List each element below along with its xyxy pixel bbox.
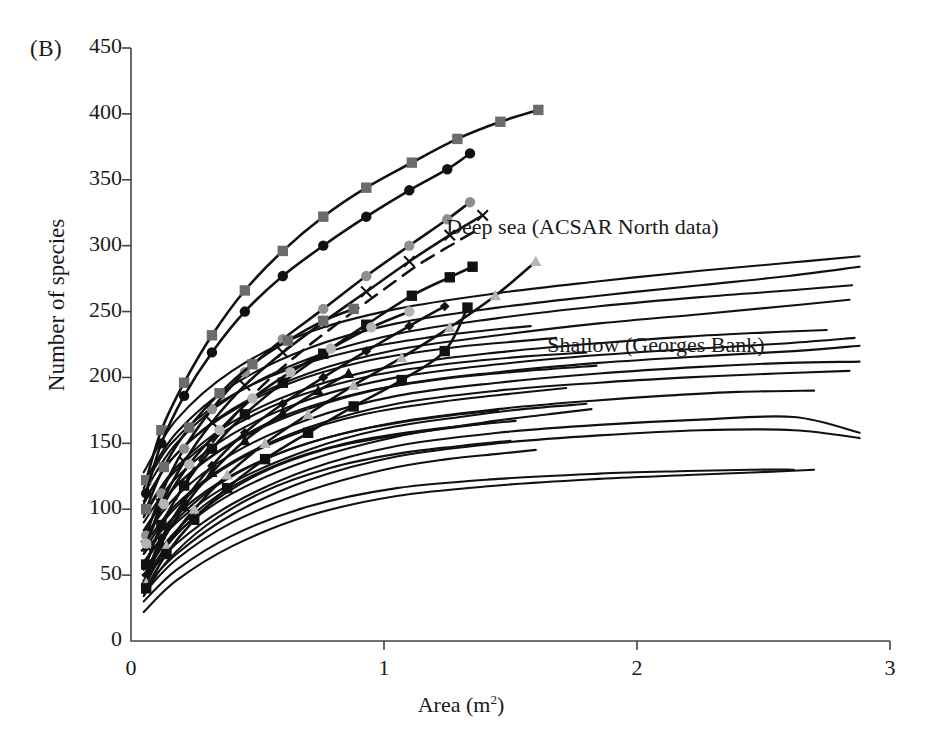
series-line — [144, 362, 860, 539]
x-tick-label: 2 — [617, 655, 657, 681]
data-point-marker — [348, 304, 358, 314]
data-point-marker — [445, 272, 455, 282]
data-point-marker — [361, 182, 371, 192]
data-point-marker — [361, 271, 371, 281]
data-point-marker — [207, 347, 217, 357]
data-point-marker — [179, 378, 189, 388]
data-point-marker — [326, 343, 336, 353]
data-point-marker — [214, 425, 224, 435]
data-point-marker — [179, 443, 189, 453]
x-tick-label: 1 — [364, 655, 404, 681]
data-point-marker — [156, 438, 166, 448]
x-tick-label: 0 — [111, 655, 151, 681]
data-point-marker — [303, 428, 313, 438]
data-point-marker — [397, 375, 407, 385]
y-tick-label: 450 — [62, 33, 122, 59]
data-point-marker — [318, 240, 328, 250]
data-point-marker — [348, 401, 358, 411]
series-line — [144, 470, 814, 612]
data-point-marker — [285, 367, 295, 377]
series-shallow-17 — [144, 470, 814, 612]
data-point-marker — [318, 316, 328, 326]
data-point-marker — [361, 211, 371, 221]
data-point-marker — [207, 443, 217, 453]
data-point-marker — [467, 262, 477, 272]
data-point-marker — [404, 185, 414, 195]
data-point-marker — [404, 256, 414, 266]
data-point-marker — [159, 462, 169, 472]
data-point-marker — [184, 459, 194, 469]
x-tick-label: 3 — [870, 655, 910, 681]
data-point-marker — [530, 256, 541, 266]
data-point-marker — [161, 549, 171, 559]
data-point-marker — [278, 271, 288, 281]
chart-annotation-2: Shallow (Georges Bank) — [547, 332, 764, 358]
data-point-marker — [404, 306, 414, 316]
y-tick-label: 150 — [62, 428, 122, 454]
data-point-marker — [189, 515, 199, 525]
series-deep-2 — [141, 148, 475, 498]
data-point-marker — [141, 583, 151, 593]
data-point-marker — [318, 211, 328, 221]
data-point-marker — [404, 240, 414, 250]
data-point-marker — [159, 499, 169, 509]
y-tick-label: 0 — [62, 626, 122, 652]
plot-canvas — [0, 0, 942, 746]
data-point-marker — [141, 538, 151, 548]
y-tick-label: 300 — [62, 231, 122, 257]
y-tick-label: 50 — [62, 560, 122, 586]
data-point-marker — [240, 409, 250, 419]
data-point-marker — [495, 117, 505, 127]
data-point-marker — [240, 285, 250, 295]
data-point-marker — [184, 422, 194, 432]
data-point-marker — [452, 134, 462, 144]
data-point-marker — [407, 291, 417, 301]
data-point-marker — [533, 105, 543, 115]
series-group-marked — [141, 105, 544, 594]
data-point-marker — [283, 335, 293, 345]
y-tick-label: 250 — [62, 297, 122, 323]
data-point-marker — [318, 304, 328, 314]
figure-panel-b: (B) Number of species Area (m2) 05010015… — [0, 0, 942, 746]
chart-annotation-1: Deep sea (ACSAR North data) — [446, 214, 719, 240]
data-point-marker — [207, 330, 217, 340]
data-point-marker — [465, 148, 475, 158]
y-tick-label: 100 — [62, 494, 122, 520]
data-point-marker — [465, 197, 475, 207]
data-point-marker — [247, 359, 257, 369]
data-point-marker — [462, 302, 472, 312]
data-point-marker — [440, 346, 450, 356]
data-point-marker — [278, 246, 288, 256]
data-point-marker — [214, 388, 224, 398]
y-tick-label: 350 — [62, 165, 122, 191]
data-point-marker — [444, 322, 455, 332]
data-point-marker — [442, 164, 452, 174]
data-point-marker — [366, 322, 376, 332]
data-point-marker — [278, 347, 288, 357]
data-point-marker — [407, 157, 417, 167]
data-point-marker — [222, 483, 232, 493]
data-point-marker — [260, 454, 270, 464]
data-point-marker — [156, 520, 166, 530]
axis-lines — [122, 48, 890, 650]
data-point-marker — [141, 504, 151, 514]
data-point-marker — [240, 306, 250, 316]
data-point-marker — [361, 287, 371, 297]
series-shallow-8 — [144, 362, 860, 539]
y-tick-label: 400 — [62, 99, 122, 125]
data-point-marker — [343, 368, 354, 378]
data-point-marker — [179, 480, 189, 490]
data-point-marker — [247, 393, 257, 403]
data-point-marker — [179, 391, 189, 401]
y-tick-label: 200 — [62, 362, 122, 388]
data-point-marker — [440, 301, 450, 311]
